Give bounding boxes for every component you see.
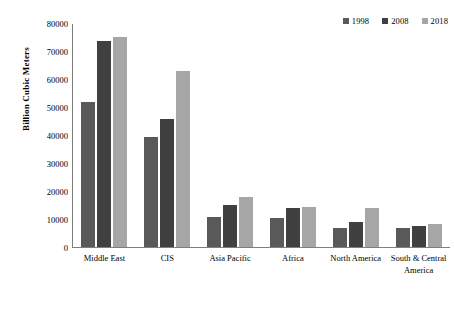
bar[interactable] bbox=[223, 205, 237, 247]
bar[interactable] bbox=[81, 102, 95, 247]
bar[interactable] bbox=[239, 197, 253, 247]
bar[interactable] bbox=[207, 217, 221, 247]
y-axis-title: Billion Cubic Meters bbox=[21, 19, 31, 159]
bar[interactable] bbox=[113, 37, 127, 247]
x-axis-line bbox=[72, 247, 450, 248]
x-tick-label: CIS bbox=[136, 253, 199, 276]
bar[interactable] bbox=[428, 224, 442, 247]
x-axis-ticks: Middle EastCISAsia PacificAfricaNorth Am… bbox=[73, 253, 450, 276]
x-tick-label: Africa bbox=[261, 253, 324, 276]
bar[interactable] bbox=[176, 71, 190, 247]
bar[interactable] bbox=[302, 207, 316, 247]
bar-group bbox=[73, 24, 136, 247]
bar[interactable] bbox=[97, 41, 111, 247]
bar[interactable] bbox=[365, 208, 379, 247]
bar[interactable] bbox=[160, 119, 174, 247]
y-tick-label: 0 bbox=[64, 244, 68, 253]
y-tick-label: 50000 bbox=[47, 104, 68, 113]
bar[interactable] bbox=[144, 137, 158, 247]
y-tick-label: 20000 bbox=[47, 188, 68, 197]
x-tick-label: South & Central America bbox=[387, 253, 450, 276]
y-tick-label: 80000 bbox=[47, 20, 68, 29]
y-tick-label: 60000 bbox=[47, 76, 68, 85]
plot-area: 0100002000030000400005000060000700008000… bbox=[72, 24, 450, 248]
x-tick-label: Asia Pacific bbox=[199, 253, 262, 276]
bar[interactable] bbox=[286, 208, 300, 247]
bar[interactable] bbox=[412, 226, 426, 247]
bar[interactable] bbox=[333, 228, 347, 248]
bar-group bbox=[136, 24, 199, 247]
bar-groups bbox=[73, 24, 450, 247]
y-tick-label: 30000 bbox=[47, 160, 68, 169]
bar-group bbox=[324, 24, 387, 247]
x-tick-label: North America bbox=[324, 253, 387, 276]
bar[interactable] bbox=[349, 222, 363, 247]
bar-chart: Billion Cubic Meters 199820082018 010000… bbox=[0, 0, 454, 312]
y-tick-label: 70000 bbox=[47, 48, 68, 57]
x-tick-label: Middle East bbox=[73, 253, 136, 276]
y-tick-label: 40000 bbox=[47, 132, 68, 141]
bar-group bbox=[261, 24, 324, 247]
bar[interactable] bbox=[270, 218, 284, 247]
bar-group bbox=[387, 24, 450, 247]
bar[interactable] bbox=[396, 228, 410, 248]
y-tick-label: 10000 bbox=[47, 216, 68, 225]
bar-group bbox=[199, 24, 262, 247]
